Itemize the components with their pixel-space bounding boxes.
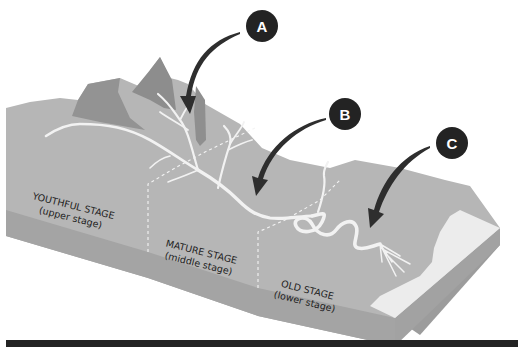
river-stages-diagram: A B C YOUTHFUL STAGE (upper stage) MATUR… bbox=[0, 0, 523, 347]
callout-b-label: B bbox=[340, 106, 351, 123]
mountain-face-3 bbox=[194, 86, 206, 146]
callout-a: A bbox=[246, 10, 278, 42]
callout-a-label: A bbox=[257, 18, 268, 35]
callout-b: B bbox=[329, 98, 361, 130]
callout-c-label: C bbox=[447, 135, 458, 152]
callout-c: C bbox=[436, 127, 468, 159]
footer-bar bbox=[6, 340, 518, 347]
arrow-a bbox=[180, 32, 240, 114]
